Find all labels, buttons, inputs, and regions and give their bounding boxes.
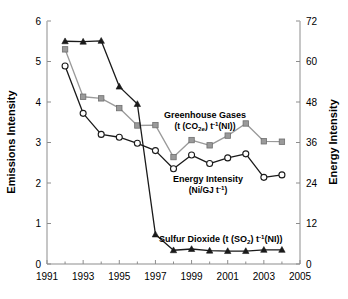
y-axis-right-title: Energy Intensity: [327, 98, 339, 184]
data-point-marker: [153, 122, 158, 127]
x-axis-tick-label: 1995: [108, 271, 131, 282]
data-point-marker: [261, 174, 267, 180]
y-axis-left-tick-label: 4: [35, 97, 41, 108]
x-axis-tick-label: 2003: [253, 271, 276, 282]
data-point-marker: [171, 166, 177, 172]
data-point-marker: [135, 123, 140, 128]
chart-canvas: 0123456 0122436486072 199119931995199719…: [0, 0, 348, 299]
x-axis-tick-label: 1997: [144, 271, 167, 282]
data-point-marker: [243, 151, 249, 157]
annotation-greenhouse-gases: Greenhouse Gases (t (CO2e) t-1(NI)): [164, 110, 246, 132]
x-axis-tick-label: 1991: [36, 271, 59, 282]
data-point-marker: [134, 140, 140, 146]
data-point-marker: [189, 152, 195, 158]
y-axis-left-tick-label: 3: [35, 137, 41, 148]
data-point-marker: [116, 134, 122, 140]
y-axis-right-tick-label: 36: [306, 137, 318, 148]
annotation-sulfur-dioxide-line1: Sulfur Dioxide (t (SO2) t-1(NI)): [159, 233, 282, 246]
data-point-marker: [171, 154, 176, 159]
y-axis-left-tick-label: 0: [35, 259, 41, 270]
annotation-greenhouse-gases-line2: (t (CO2e) t-1(NI)): [174, 120, 235, 133]
chart-background: [0, 0, 348, 299]
data-point-marker: [99, 96, 104, 101]
y-axis-right-tick-label: 48: [306, 97, 318, 108]
data-point-marker: [207, 161, 213, 167]
data-point-marker: [62, 47, 67, 52]
y-axis-left-tick-label: 2: [35, 178, 41, 189]
annotation-greenhouse-gases-line1: Greenhouse Gases: [164, 110, 246, 120]
data-point-marker: [189, 137, 194, 142]
data-point-marker: [243, 121, 248, 126]
data-point-marker: [225, 133, 230, 138]
data-point-marker: [152, 148, 158, 154]
annotation-energy-intensity-line1: Energy Intensity: [173, 174, 243, 184]
y-axis-right-tick-label: 12: [306, 218, 318, 229]
y-axis-left-tick-label: 1: [35, 218, 41, 229]
y-axis-right-tick-label: 72: [306, 16, 318, 27]
data-point-marker: [279, 172, 285, 178]
y-axis-left-title: Emissions Intensity: [5, 89, 17, 193]
y-axis-right-tick-label: 0: [306, 259, 312, 270]
x-axis-tick-label: 1993: [72, 271, 95, 282]
y-axis-left-tick-label: 5: [35, 56, 41, 67]
data-point-marker: [80, 110, 86, 116]
y-axis-right-tick-label: 60: [306, 56, 318, 67]
data-point-marker: [261, 139, 266, 144]
emissions-energy-intensity-chart: 0123456 0122436486072 199119931995199719…: [0, 0, 348, 299]
data-point-marker: [62, 63, 68, 69]
x-axis-tick-label: 1999: [180, 271, 203, 282]
data-point-marker: [80, 94, 85, 99]
y-axis-right-tick-label: 24: [306, 178, 318, 189]
data-point-marker: [98, 131, 104, 137]
x-axis-tick-label: 2005: [289, 271, 312, 282]
data-point-marker: [207, 143, 212, 148]
data-point-marker: [117, 105, 122, 110]
annotation-sulfur-dioxide: Sulfur Dioxide (t (SO2) t-1(NI)): [159, 233, 282, 246]
y-axis-left-tick-label: 6: [35, 16, 41, 27]
data-point-marker: [279, 139, 284, 144]
data-point-marker: [225, 155, 231, 161]
x-axis-tick-label: 2001: [217, 271, 240, 282]
